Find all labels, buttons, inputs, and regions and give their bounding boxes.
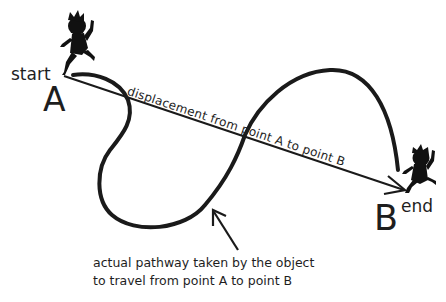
running-child-start-icon [60,10,95,75]
displacement-diagram: start A displacement from point A to poi… [0,0,446,302]
displacement-arrow [64,76,405,194]
arrow-pointer-icon [213,210,238,250]
pathway-caption: actual pathway taken by the object to tr… [93,254,314,290]
caption-line-2: to travel from point A to point B [93,273,292,288]
point-a-label: A [43,80,66,119]
point-b-label: B [374,198,398,238]
actual-pathway-curve [73,70,398,227]
end-label: end [401,196,433,216]
caption-line-1: actual pathway taken by the object [93,255,314,270]
running-child-end-icon [402,144,436,193]
